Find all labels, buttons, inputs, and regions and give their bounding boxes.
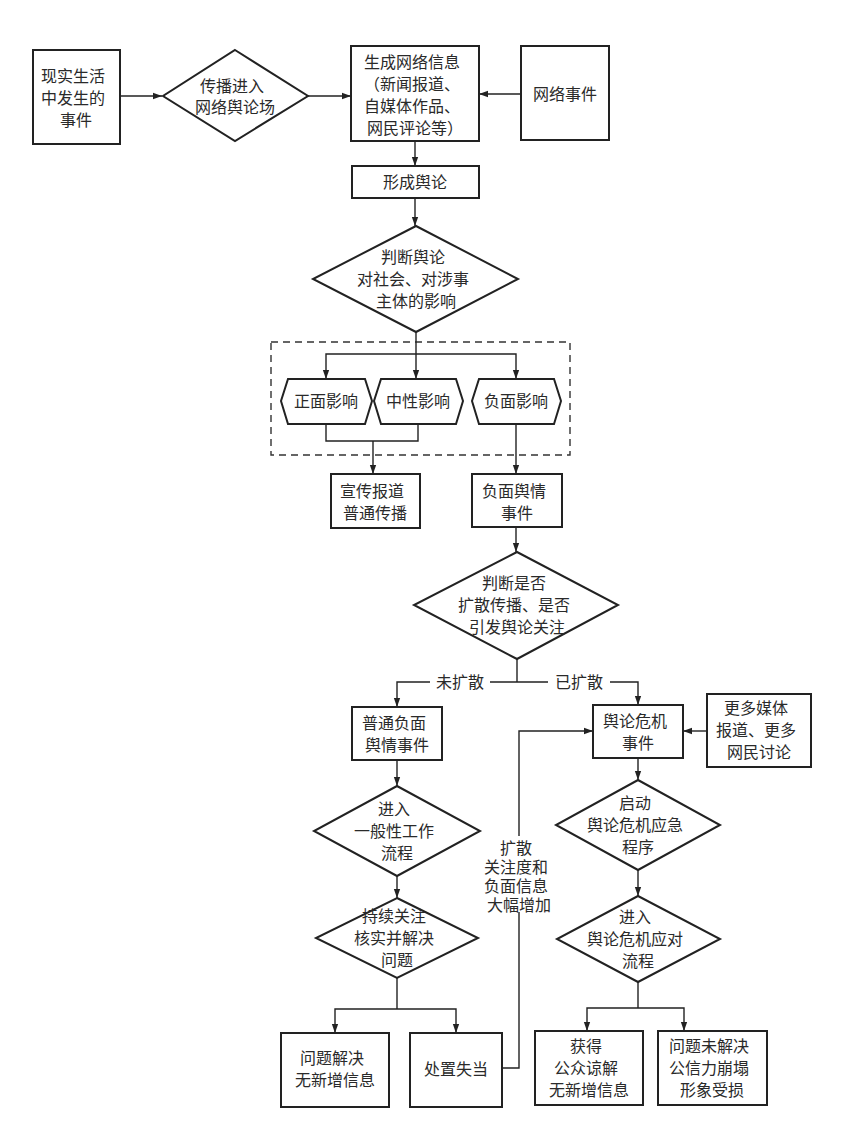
feedback-text: 关注度和	[484, 858, 548, 877]
node-text: （新闻报道、	[364, 75, 460, 94]
node-judge-impact: 判断舆论 对社会、对涉事 主体的影响	[313, 226, 518, 332]
node-text: 普通传播	[343, 504, 407, 523]
node-text: 流程	[622, 952, 654, 971]
node-text: 进入	[378, 800, 410, 819]
edge-judge-to-positive	[326, 354, 416, 379]
node-negative-impact: 负面影响	[472, 379, 561, 424]
node-text: 舆论危机应急	[587, 816, 683, 835]
svg-text:已扩散: 已扩散	[555, 673, 603, 692]
svg-text:更多媒体 报道、更多 网民讨论: 更多媒体 报道、更多 网民讨论	[716, 699, 801, 762]
node-text: 自媒体作品、	[364, 97, 460, 116]
node-unresolved: 问题未解决 公信力崩塌 形象受损	[658, 1031, 767, 1105]
feedback-text: 负面信息	[484, 877, 548, 896]
node-text: 网民讨论	[727, 743, 791, 762]
node-text: 中性影响	[386, 392, 450, 411]
node-network-event: 网络事件	[521, 46, 609, 140]
node-mishandled: 处置失当	[410, 1033, 502, 1107]
node-text: 事件	[622, 734, 654, 753]
edge-label-spread: 已扩散	[548, 672, 610, 692]
node-generate-info: 生成网络信息 （新闻报道、 自媒体作品、 网民评论等）	[351, 46, 479, 141]
edge-follow-to-resolved	[335, 1009, 397, 1033]
node-text: 负面舆情	[482, 482, 546, 501]
flowchart-canvas: 现实生活 中发生的 事件 传播进入 网络舆论场 生成网络信息 （新闻报道、 自媒…	[0, 0, 843, 1132]
edge-judge-to-negative	[416, 354, 516, 379]
node-text: 宣传报道	[340, 482, 404, 501]
node-text: 核实并解决	[354, 929, 434, 948]
node-text: 引发舆论关注	[469, 618, 565, 637]
node-judge-spread: 判断是否 扩散传播、是否 引发舆论关注	[414, 552, 618, 659]
node-text: 扩散传播、是否	[458, 596, 570, 615]
node-general-process: 进入 一般性工作 流程	[314, 786, 480, 876]
node-text: 负面影响	[484, 392, 548, 411]
node-text: 网民评论等）	[367, 119, 463, 138]
node-text: 程序	[622, 838, 654, 857]
node-text: 获得	[570, 1037, 602, 1056]
edge-feedback-lower	[502, 912, 519, 1068]
node-more-media: 更多媒体 报道、更多 网民讨论	[707, 694, 811, 767]
node-understood: 获得 公众谅解 无新增信息	[535, 1031, 643, 1105]
svg-text:负面影响: 负面影响	[484, 392, 548, 411]
node-text: 网络舆论场	[195, 98, 275, 117]
node-text: 中发生的	[41, 89, 105, 108]
node-text: 问题	[381, 951, 413, 970]
node-text: 公信力崩塌	[669, 1059, 749, 1078]
node-text: 进入	[619, 908, 651, 927]
node-text: 一般性工作	[354, 822, 434, 841]
feedback-text: 扩散	[500, 839, 532, 858]
node-text: 问题解决	[300, 1049, 364, 1068]
edge-label-feedback: 扩散 关注度和 负面信息 大幅增加	[484, 839, 553, 915]
node-start-emergency: 启动 舆论危机应急 程序	[556, 780, 720, 870]
node-text: 舆情事件	[365, 736, 429, 755]
svg-text:正面影响: 正面影响	[294, 392, 358, 411]
node-resolved: 问题解决 无新增信息	[281, 1033, 389, 1107]
node-text: 舆论危机	[603, 712, 667, 731]
node-text: 处置失当	[424, 1060, 488, 1079]
node-text: 问题未解决	[669, 1037, 749, 1056]
svg-text:中性影响: 中性影响	[386, 392, 450, 411]
node-text: 主体的影响	[376, 292, 456, 311]
node-crisis-event: 舆论危机 事件	[593, 705, 683, 758]
node-text: 对社会、对涉事	[357, 270, 469, 289]
svg-text:问题未解决 公信力崩塌 形象受损: 问题未解决 公信力崩塌 形象受损	[669, 1037, 754, 1100]
node-ordinary-negative: 普通负面 舆情事件	[352, 707, 442, 760]
node-text: 生成网络信息	[364, 53, 460, 72]
edge-follow-to-mishandled	[397, 1009, 456, 1033]
node-text: 公众谅解	[554, 1059, 618, 1078]
svg-text:处置失当: 处置失当	[424, 1060, 488, 1079]
node-publicity: 宣传报道 普通传播	[331, 474, 420, 528]
node-text: 判断是否	[482, 574, 546, 593]
node-text: 报道、更多	[716, 721, 796, 740]
node-text: 网络事件	[533, 85, 597, 104]
node-follow-resolve: 持续关注 核实并解决 问题	[316, 898, 478, 978]
edge-merge-positive-neutral	[326, 424, 418, 441]
node-text: 持续关注	[362, 907, 426, 926]
node-text: 流程	[381, 844, 413, 863]
feedback-text: 大幅增加	[487, 896, 551, 915]
node-text: 判断舆论	[381, 248, 445, 267]
node-text: 普通负面	[362, 714, 426, 733]
svg-text:形成舆论: 形成舆论	[383, 173, 447, 192]
node-form-opinion: 形成舆论	[352, 166, 479, 198]
node-text: 事件	[501, 504, 533, 523]
node-neutral-impact: 中性影响	[374, 379, 463, 424]
node-text: 无新增信息	[295, 1071, 375, 1090]
node-text: 传播进入	[200, 77, 264, 96]
svg-text:网络事件: 网络事件	[533, 85, 597, 104]
node-text: 事件	[60, 111, 92, 130]
svg-text:扩散 关注度和 负面信息: 扩散 关注度和 负面信息 大幅增加	[484, 839, 553, 915]
node-real-event: 现实生活 中发生的 事件	[33, 50, 120, 144]
node-text: 更多媒体	[724, 699, 788, 718]
node-text: 启动	[619, 794, 651, 813]
node-negative-event: 负面舆情 事件	[472, 474, 562, 527]
svg-text:未扩散: 未扩散	[436, 673, 484, 692]
edge-response-to-understood	[587, 1008, 638, 1031]
node-spread-into-field: 传播进入 网络舆论场	[163, 50, 308, 141]
node-text: 无新增信息	[549, 1081, 629, 1100]
node-text: 形象受损	[680, 1081, 744, 1100]
node-text: 现实生活	[41, 67, 105, 86]
node-positive-impact: 正面影响	[281, 379, 372, 424]
edge-response-to-unresolved	[638, 1008, 684, 1031]
edge-label-not-spread: 未扩散	[430, 672, 490, 692]
node-text: 正面影响	[294, 392, 358, 411]
node-crisis-response: 进入 舆论危机应对 流程	[557, 896, 720, 982]
